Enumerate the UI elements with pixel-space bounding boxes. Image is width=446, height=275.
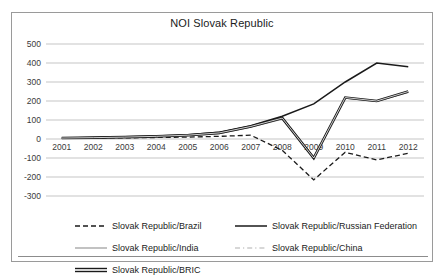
series-line	[62, 92, 409, 158]
series-line-inner	[62, 92, 409, 159]
legend-swatch-icon	[234, 242, 268, 254]
x-tick-label: 2004	[147, 142, 166, 152]
legend-item-label: Slovak Republic/India	[112, 243, 199, 253]
legend-item-label: Slovak Republic/BRIC	[112, 265, 201, 275]
legend-item[interactable]: Slovak Republic/BRIC	[74, 261, 201, 275]
x-tick-label: 2005	[178, 142, 197, 152]
legend-item-label: Slovak Republic/China	[272, 243, 363, 253]
y-tick-label: 100	[27, 115, 41, 125]
legend-swatch-icon	[74, 220, 108, 232]
series-line	[62, 63, 409, 138]
x-tick-label: 2011	[368, 142, 387, 152]
series-line-outer	[62, 92, 409, 159]
y-tick-label: 500	[27, 39, 41, 49]
legend-swatch-icon	[234, 220, 268, 232]
y-tick-label: 400	[27, 58, 41, 68]
x-tick-label: 2012	[399, 142, 418, 152]
x-tick-label: 2002	[84, 142, 103, 152]
y-axis-tick-labels: 5004003002001000-100-200-300	[24, 39, 41, 201]
legend-item-label: Slovak Republic/Russian Federation	[272, 221, 417, 231]
legend-item-label: Slovak Republic/Brazil	[112, 221, 202, 231]
y-tick-label: -300	[24, 191, 41, 201]
gridlines	[46, 44, 424, 196]
series-line	[62, 92, 409, 157]
legend-swatch-icon	[74, 264, 108, 275]
x-tick-label: 2006	[210, 142, 229, 152]
legend-item[interactable]: Slovak Republic/China	[234, 239, 363, 257]
y-tick-label: 300	[27, 77, 41, 87]
chart-legend: Slovak Republic/BrazilSlovak Republic/Ru…	[12, 203, 432, 261]
legend-item[interactable]: Slovak Republic/Brazil	[74, 217, 202, 235]
y-tick-label: -100	[24, 153, 41, 163]
legend-item[interactable]: Slovak Republic/India	[74, 239, 199, 257]
x-tick-label: 2001	[52, 142, 71, 152]
chart-container: NOI Slovak Republic 5004003002001000-100…	[11, 12, 433, 262]
y-tick-label: 200	[27, 96, 41, 106]
x-tick-label: 2003	[115, 142, 134, 152]
series-line	[62, 135, 409, 180]
data-series-lines	[62, 63, 409, 180]
x-tick-label: 2010	[336, 142, 355, 152]
y-tick-label: -200	[24, 172, 41, 182]
x-axis-tick-labels: 2001200220032004200520062007200820092010…	[52, 142, 418, 152]
legend-swatch-icon	[74, 242, 108, 254]
y-tick-label: 0	[36, 134, 41, 144]
x-tick-label: 2007	[241, 142, 260, 152]
legend-item[interactable]: Slovak Republic/Russian Federation	[234, 217, 417, 235]
